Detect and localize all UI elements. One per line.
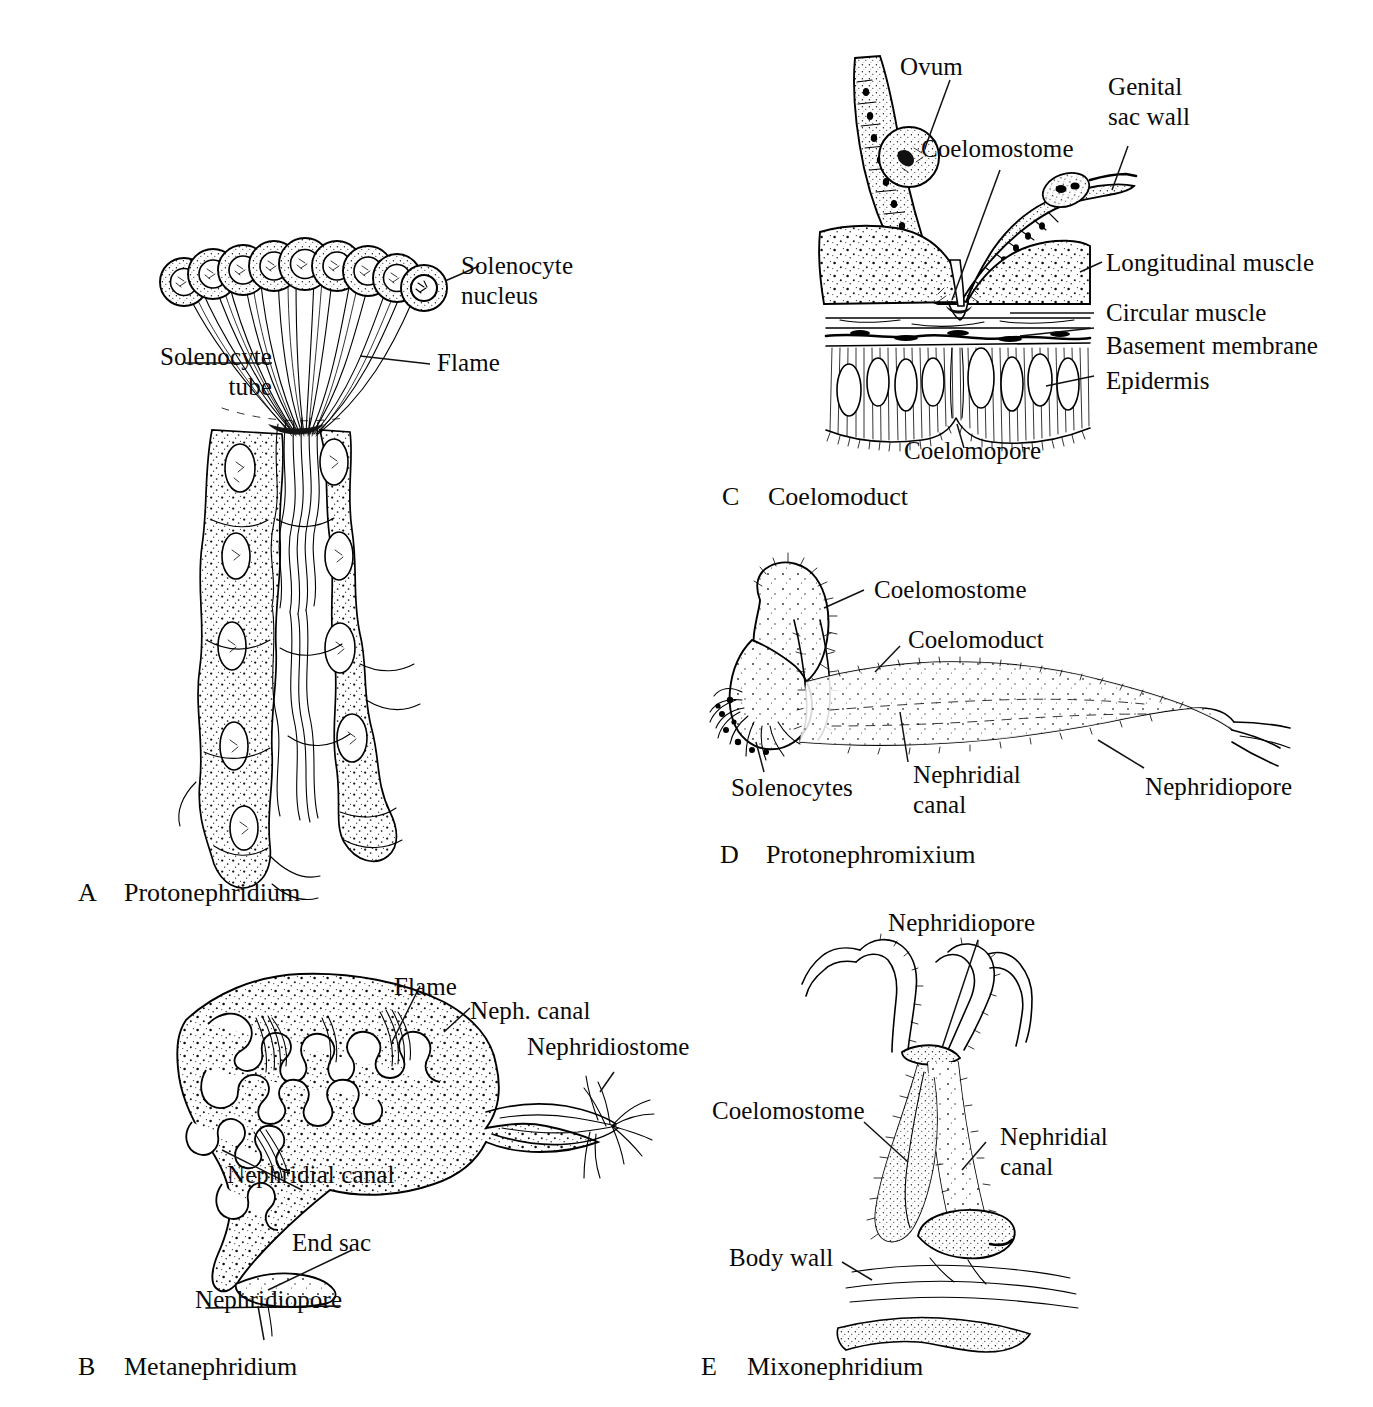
label-body-wall: Body wall: [729, 1243, 833, 1273]
label-nephridial-canal-e: Nephridial canal: [1000, 1122, 1108, 1182]
label-longitudinal-muscle: Longitudinal muscle: [1106, 248, 1314, 278]
label-coelomostome-d: Coelomostome: [874, 575, 1027, 605]
caption-text-e: Mixonephridium: [747, 1352, 923, 1381]
caption-text-a: Protonephridium: [124, 878, 300, 907]
leader-body-wall: [842, 1262, 872, 1280]
label-nephridiopore-b: Nephridiopore: [195, 1285, 342, 1315]
caption-panel-b: BMetanephridium: [78, 1352, 297, 1382]
leader-nephridiopore-d: [1098, 740, 1144, 768]
caption-text-c: Coelomoduct: [768, 482, 908, 511]
caption-letter-e: E: [701, 1352, 747, 1382]
label-nephridiostome: Nephridiostome: [527, 1032, 689, 1062]
caption-text-d: Protonephromixium: [766, 840, 975, 869]
caption-letter-b: B: [78, 1352, 124, 1382]
figure-plate: Solenocyte nucleus Solenocyte tube Flame…: [0, 0, 1373, 1407]
caption-letter-a: A: [78, 878, 124, 908]
label-genital-sac-wall: Genital sac wall: [1108, 72, 1190, 132]
caption-panel-e: EMixonephridium: [701, 1352, 923, 1382]
label-neph-canal: Neph. canal: [470, 996, 591, 1026]
caption-letter-d: D: [720, 840, 766, 870]
label-solenocyte-tube: Solenocyte tube: [20, 342, 272, 402]
label-solenocyte-nucleus: Solenocyte nucleus: [461, 251, 573, 311]
label-flame-b: Flame: [394, 972, 457, 1002]
label-basement-membrane: Basement membrane: [1106, 331, 1318, 361]
label-end-sac: End sac: [292, 1228, 371, 1258]
label-flame-a: Flame: [437, 348, 500, 378]
label-nephridial-canal-d: Nephridial canal: [913, 760, 1021, 820]
protonephridium-canal: [179, 418, 420, 899]
caption-panel-d: DProtonephromixium: [720, 840, 975, 870]
label-circular-muscle: Circular muscle: [1106, 298, 1266, 328]
panel-a-artwork: [160, 238, 479, 899]
caption-panel-a: AProtonephridium: [78, 878, 300, 908]
caption-letter-c: C: [722, 482, 768, 512]
label-nephridial-canal-b: Nephridial canal: [227, 1160, 395, 1190]
caption-text-b: Metanephridium: [124, 1352, 297, 1381]
label-coelomostome-e: Coelomostome: [712, 1096, 865, 1126]
label-nephridiopore-d: Nephridiopore: [1145, 772, 1292, 802]
label-epidermis: Epidermis: [1106, 366, 1210, 396]
label-coelomopore: Coelomopore: [904, 436, 1041, 466]
caption-panel-c: CCoelomoduct: [722, 482, 908, 512]
figure-artwork: [0, 0, 1373, 1407]
panel-c-artwork: [819, 56, 1136, 452]
label-coelomoduct-d: Coelomoduct: [908, 625, 1044, 655]
leader-genital-sac-wall: [1112, 146, 1128, 190]
label-coelomostome-c: Coelomostome: [921, 134, 1074, 164]
leader-nephridiostome: [600, 1072, 614, 1092]
label-solenocytes: Solenocytes: [731, 773, 853, 803]
label-ovum: Ovum: [900, 52, 963, 82]
label-nephridiopore-e: Nephridiopore: [888, 908, 1035, 938]
solenocyte-heads: [160, 238, 447, 311]
